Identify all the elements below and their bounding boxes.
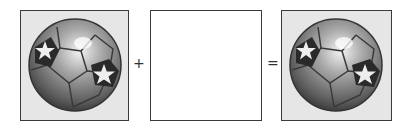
operand-a-image-box xyxy=(20,10,129,121)
operand-b-blank-box[interactable] xyxy=(150,10,262,121)
soccer-ball-icon xyxy=(21,11,128,120)
result-image-box xyxy=(281,10,392,121)
plus-sign: + xyxy=(133,56,145,70)
equals-sign: = xyxy=(267,56,279,70)
soccer-ball-icon xyxy=(282,11,391,120)
